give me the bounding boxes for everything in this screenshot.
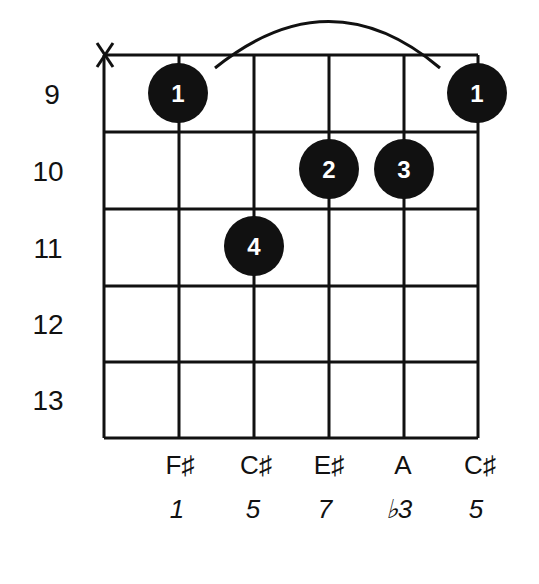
finger-dot: 4 xyxy=(224,216,284,276)
fret-number: 13 xyxy=(32,385,63,416)
finger-dot: 2 xyxy=(299,139,359,199)
note-label: A xyxy=(394,450,412,480)
svg-text:2: 2 xyxy=(322,156,335,183)
interval-label: 1 xyxy=(170,494,184,524)
svg-text:1: 1 xyxy=(171,80,184,107)
svg-text:3: 3 xyxy=(397,156,410,183)
interval-label: 7 xyxy=(318,494,334,524)
finger-dot: 1 xyxy=(447,63,507,123)
fret-number: 12 xyxy=(32,309,63,340)
interval-label: 5 xyxy=(246,494,261,524)
chord-diagram: 9 10 11 12 13 1 1 2 3 4 F♯ C♯ E♯ A C♯ 1 … xyxy=(0,0,539,584)
note-label: F♯ xyxy=(166,450,195,480)
interval-label: ♭3 xyxy=(386,494,413,524)
note-label: E♯ xyxy=(314,450,344,480)
svg-text:1: 1 xyxy=(470,80,483,107)
fret-number: 9 xyxy=(44,79,60,110)
interval-label: 5 xyxy=(469,494,484,524)
fret-number: 11 xyxy=(33,233,62,264)
note-label: C♯ xyxy=(464,450,496,480)
svg-text:4: 4 xyxy=(247,233,261,260)
finger-dot: 3 xyxy=(374,139,434,199)
fret-number: 10 xyxy=(32,156,63,187)
note-label: C♯ xyxy=(240,450,272,480)
finger-dot: 1 xyxy=(148,63,208,123)
